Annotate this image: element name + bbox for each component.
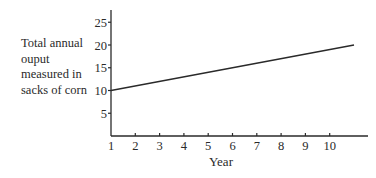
y-tick-label: 15 [95,61,108,75]
x-tick-label: 8 [278,139,284,153]
x-tick-label: 5 [205,139,211,153]
x-tick-label: 10 [323,139,336,153]
x-tick-label: 6 [229,139,235,153]
y-tick-label: 5 [101,107,107,121]
x-tick-label: 4 [181,139,188,153]
y-tick-label: 20 [95,39,108,53]
x-tick-label: 1 [108,139,114,153]
line-chart: 51015202512345678910 Year [0,0,376,178]
y-tick-label: 10 [95,84,108,98]
data-series [111,45,354,91]
x-tick-label: 9 [302,139,308,153]
y-tick-label: 25 [95,16,108,30]
x-tick-label: 7 [254,139,260,153]
x-tick-label: 2 [132,139,138,153]
series-line [111,45,354,91]
x-tick-label: 3 [156,139,162,153]
axes: 51015202512345678910 [95,10,369,153]
x-axis-label: Year [209,154,234,169]
